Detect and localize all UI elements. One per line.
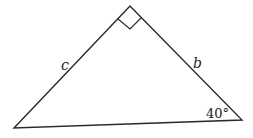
side-label-c: c [61, 57, 69, 73]
triangle-svg: c b 40° [0, 0, 253, 138]
side-label-b: b [193, 55, 202, 71]
triangle-diagram: c b 40° [0, 0, 253, 138]
angle-label: 40° [206, 106, 229, 121]
right-angle-marker [118, 18, 141, 29]
